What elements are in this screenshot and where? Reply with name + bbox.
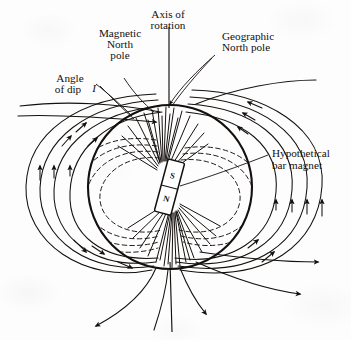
label-geographic-north-pole: Geographic North pole — [222, 30, 274, 53]
earth-magnetic-field-diagram: S N Axis of rotation Magnetic North pole… — [0, 0, 351, 340]
hypothetical-bar-magnet-line1: Hypothetical — [272, 147, 330, 159]
label-magnetic-north-pole: Magnetic North pole — [99, 27, 141, 61]
label-axis-of-rotation: Axis of rotation — [151, 8, 186, 31]
axis-of-rotation-line2: rotation — [151, 19, 186, 31]
label-angle-of-dip: Angle of dip I — [55, 72, 97, 95]
hypothetical-bar-magnet-line2: bar magnet — [272, 159, 323, 171]
magnetic-north-pole-line3: pole — [110, 49, 129, 61]
hypothetical-bar-magnet: S N — [154, 159, 184, 216]
label-hypothetical-bar-magnet: Hypothetical bar magnet — [272, 147, 330, 171]
angle-of-dip-line2: of dip — [55, 83, 82, 95]
axis-of-rotation-line-lower — [170, 262, 172, 332]
geographic-north-pole-line2: North pole — [222, 41, 270, 53]
